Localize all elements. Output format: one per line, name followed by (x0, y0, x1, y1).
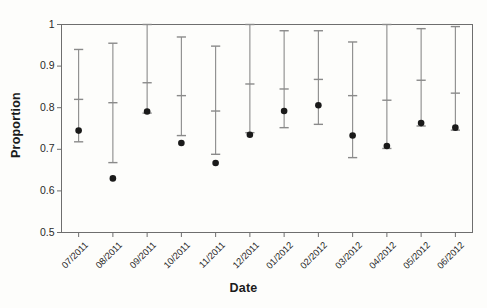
chart-figure: Proportion Date 0.50.60.70.80.91 07/2011… (0, 0, 487, 308)
plot-area (0, 0, 487, 308)
